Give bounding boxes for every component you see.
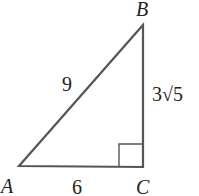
side-label-ab: 9	[62, 73, 72, 95]
triangle-diagram: B A C 9 6 3√5	[0, 0, 199, 196]
vertex-label-b: B	[136, 0, 148, 20]
triangle-abc	[19, 25, 143, 167]
side-label-ac: 6	[72, 176, 82, 196]
side-label-bc: 3√5	[152, 83, 183, 105]
right-angle-marker	[119, 144, 143, 167]
vertex-label-a: A	[0, 175, 14, 196]
vertex-label-c: C	[136, 176, 150, 196]
